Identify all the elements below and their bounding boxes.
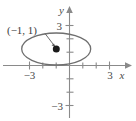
ellipse-graph-figure: −3 3 3 −3 x y (−1, 1)	[0, 0, 136, 121]
y-tick-label-3: 3	[57, 20, 63, 32]
center-point-marker	[53, 46, 60, 53]
x-tick-label-minus3: −3	[24, 69, 36, 81]
y-axis-arrowhead	[66, 6, 73, 13]
coordinate-plane-svg: −3 3 3 −3 x y (−1, 1)	[0, 0, 136, 121]
y-tick-label-minus3: −3	[51, 100, 63, 112]
x-tick-label-3: 3	[107, 69, 113, 81]
y-axis-label: y	[58, 4, 64, 16]
x-axis-arrowhead	[125, 62, 132, 69]
annotation-leader-line	[45, 34, 54, 46]
center-point-label: (−1, 1)	[7, 24, 37, 37]
x-axis-label: x	[119, 69, 125, 81]
